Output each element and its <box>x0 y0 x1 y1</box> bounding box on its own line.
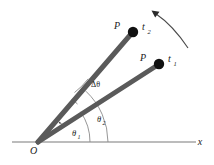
particle-dot-t2 <box>128 27 138 37</box>
theta1-label: θ <box>72 128 76 138</box>
time-label-t2-subscript: 2 <box>148 28 152 35</box>
theta2-label-subscript: 2 <box>103 120 106 126</box>
time-label-t2: t <box>142 21 145 32</box>
x-axis-label: x <box>197 136 203 147</box>
angular-displacement-svg: O x P t 2 P t 1 Δθ θ 2 θ 1 <box>0 0 214 165</box>
ray-to-point-t1 <box>38 66 157 143</box>
delta-theta-label: Δθ <box>91 80 100 89</box>
theta2-label: θ <box>97 114 101 124</box>
particle-dot-t1 <box>154 59 164 69</box>
theta1-label-subscript: 1 <box>78 134 81 140</box>
diagram-canvas: O x P t 2 P t 1 Δθ θ 2 θ 1 <box>0 0 214 165</box>
time-label-t1-subscript: 1 <box>174 60 177 67</box>
point-label-lower: P <box>139 52 146 63</box>
rotation-arrowhead-icon <box>152 11 160 18</box>
origin-label: O <box>30 145 37 156</box>
theta1-leader-dot <box>59 122 61 124</box>
ray-to-point-t2 <box>38 34 132 143</box>
point-label-upper: P <box>113 20 120 31</box>
rotation-direction-arrow <box>156 14 189 49</box>
time-label-t1: t <box>168 53 171 64</box>
